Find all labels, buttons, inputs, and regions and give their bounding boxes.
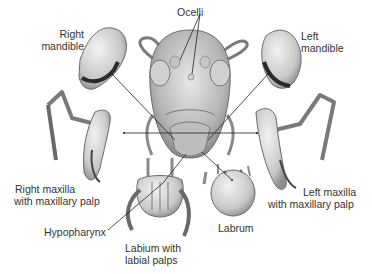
label-left-mandible-line1: Left <box>301 30 319 42</box>
labium <box>128 158 189 236</box>
label-right-mandible-line1: Right <box>40 28 84 40</box>
right-maxilla <box>48 92 110 182</box>
label-labrum: Labrum <box>218 222 254 234</box>
label-hypopharynx: Hypopharynx <box>44 226 106 238</box>
label-right-maxilla-line2: with maxillary palp <box>14 195 100 207</box>
insect-mouthparts-diagram: Ocelli Right mandible Left mandible Righ… <box>0 0 372 274</box>
label-right-maxilla-line1: Right maxilla <box>15 183 75 195</box>
label-ocelli: Ocelli <box>177 6 203 18</box>
right-mandible <box>79 28 126 90</box>
label-left-maxilla-line1: Left maxilla <box>303 186 356 198</box>
label-left-mandible-line2: mandible <box>301 42 344 54</box>
labrum <box>204 164 255 216</box>
left-mandible <box>262 30 301 88</box>
label-labium-line2: labial palps <box>125 254 178 266</box>
left-maxilla <box>256 95 334 189</box>
head-capsule <box>147 30 233 158</box>
label-left-maxilla-line2: with maxillary palp <box>268 198 354 210</box>
label-labium-line1: Labium with <box>125 242 181 254</box>
label-right-mandible-line2: mandible <box>34 40 84 52</box>
